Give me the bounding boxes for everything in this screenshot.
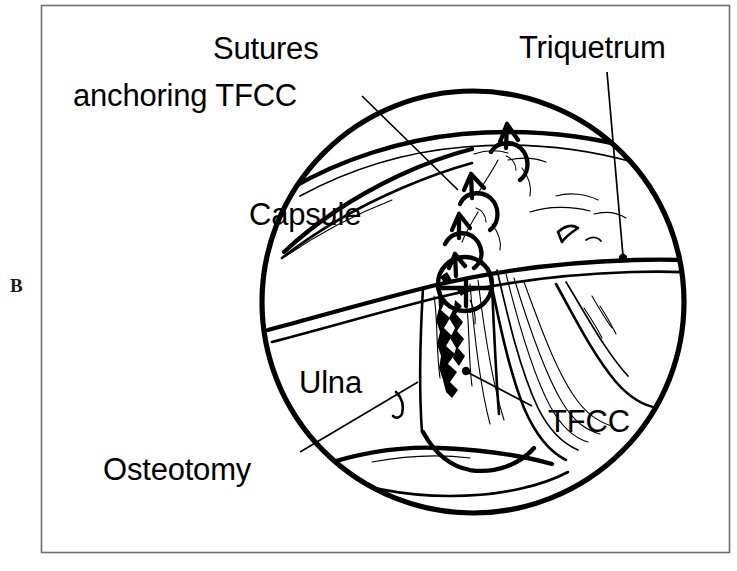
label-tfcc: TFCC [548, 404, 630, 439]
label-ulna: Ulna [299, 365, 363, 400]
figure-container: B [0, 0, 737, 571]
leader-dot-triquetrum [619, 254, 627, 262]
label-osteotomy: Osteotomy [103, 452, 252, 487]
label-sutures-line2: anchoring TFCC [73, 78, 297, 113]
arthroscope-field [262, 91, 706, 513]
label-sutures-line1: Sutures [213, 31, 318, 66]
label-capsule: Capsule [249, 197, 361, 232]
panel-letter: B [10, 275, 23, 296]
label-triquetrum: Triquetrum [519, 30, 666, 65]
anatomical-illustration: B [0, 0, 737, 571]
leader-dot-tfcc [462, 367, 470, 375]
